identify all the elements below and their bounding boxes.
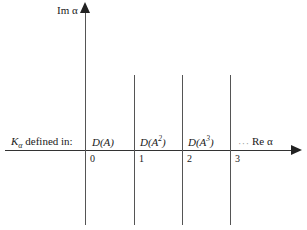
imaginary-axis-label: Im α — [57, 5, 78, 16]
imaginary-axis-line — [85, 12, 86, 225]
domain-close-3: ) — [210, 136, 214, 148]
tick-label-3: 3 — [235, 154, 240, 164]
real-axis-label: Re α — [252, 136, 273, 147]
domain-close-2: ) — [162, 136, 166, 148]
tick-label-2: 2 — [187, 154, 192, 164]
tick-label-1: 1 — [139, 154, 144, 164]
domain-label-2: D(A2) — [140, 135, 166, 148]
domain-close-1: ) — [110, 136, 114, 148]
imaginary-axis-arrowhead — [80, 2, 90, 13]
complex-plane-figure: Im α ··· Re α Kα defined in: D(A) D(A2) … — [0, 0, 307, 230]
defined-in-text: defined in: — [23, 135, 73, 147]
domain-boundary-line-2 — [182, 75, 183, 225]
k-alpha-defined-in-label: Kα defined in: — [11, 136, 73, 150]
domain-boundary-line-3 — [230, 75, 231, 225]
domain-base-2: D(A — [140, 136, 158, 148]
tick-label-0: 0 — [90, 154, 95, 164]
ellipsis-decoration: ··· — [238, 138, 250, 149]
domain-label-1: D(A) — [92, 135, 114, 148]
domain-base-1: D(A — [92, 136, 110, 148]
domain-label-3: D(A3) — [188, 135, 214, 148]
domain-base-3: D(A — [188, 136, 206, 148]
domain-boundary-line-1 — [134, 75, 135, 225]
real-axis-arrowhead — [291, 145, 302, 155]
